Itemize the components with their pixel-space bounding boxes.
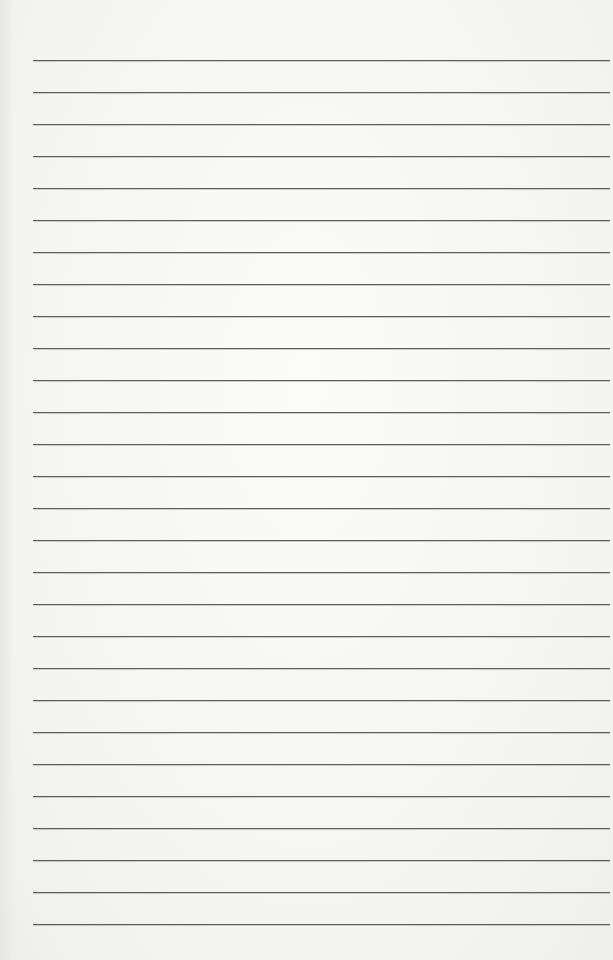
ruled-line: [33, 284, 610, 285]
ruled-line: [33, 572, 610, 573]
ruled-line: [33, 124, 610, 125]
ruled-line: [33, 732, 610, 733]
ruled-line: [33, 476, 610, 477]
ruled-line: [33, 700, 610, 701]
ruled-line: [33, 764, 610, 765]
ruled-line: [33, 156, 610, 157]
ruled-line: [33, 892, 610, 893]
ruled-line: [33, 348, 610, 349]
ruled-line: [33, 220, 610, 221]
ruled-line: [33, 636, 610, 637]
lined-paper-sheet: [0, 0, 613, 960]
ruled-line: [33, 668, 610, 669]
ruled-line: [33, 444, 610, 445]
ruled-line: [33, 412, 610, 413]
ruled-line: [33, 92, 610, 93]
ruled-line: [33, 188, 610, 189]
ruled-line: [33, 252, 610, 253]
ruled-line: [33, 60, 610, 61]
ruled-line: [33, 604, 610, 605]
ruled-line: [33, 316, 610, 317]
ruled-line: [33, 508, 610, 509]
ruled-line: [33, 828, 610, 829]
ruled-line: [33, 924, 610, 925]
ruled-line: [33, 540, 610, 541]
ruled-line: [33, 380, 610, 381]
ruled-line: [33, 860, 610, 861]
ruled-line: [33, 796, 610, 797]
